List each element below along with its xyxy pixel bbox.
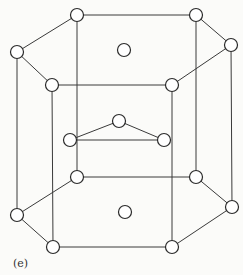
middle-atom — [158, 134, 171, 147]
vertical-edge — [52, 85, 53, 247]
middle-atom — [64, 134, 77, 147]
middle-atom — [113, 115, 126, 128]
vertical-edge — [231, 45, 232, 207]
bottom-atom — [11, 209, 24, 222]
bottom-atom — [71, 171, 84, 184]
top-atom — [166, 79, 179, 92]
bottom-hexagon-edge — [17, 215, 53, 247]
top-atom — [190, 9, 203, 22]
bottom-atom — [190, 171, 203, 184]
top-hexagon-edge — [172, 45, 231, 85]
top-atom — [71, 9, 84, 22]
figure-label: (e) — [13, 257, 28, 270]
top-hexagon-edge — [17, 52, 52, 85]
top-center-atom — [118, 44, 131, 57]
middle-triangle-edge — [119, 121, 164, 140]
top-atom — [46, 79, 59, 92]
bottom-hexagon-edge — [172, 207, 232, 247]
top-atom — [11, 46, 24, 59]
bottom-atom — [47, 241, 60, 254]
bottom-hexagon-edge — [17, 177, 77, 215]
top-atom — [225, 39, 238, 52]
bottom-atom — [166, 241, 179, 254]
bottom-center-atom — [119, 206, 132, 219]
top-hexagon-edge — [17, 15, 77, 52]
atoms — [11, 9, 239, 254]
hcp-crystal-diagram — [0, 0, 243, 275]
bottom-atom — [226, 201, 239, 214]
